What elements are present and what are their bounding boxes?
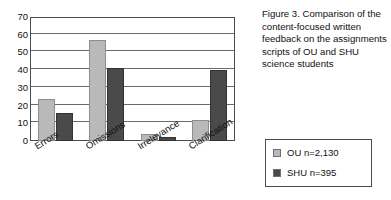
- bar-chart: 706050403020100 ErrorsOmissionsIrrelevan…: [0, 0, 255, 200]
- y-tick-label-0: 0: [2, 136, 28, 146]
- y-tick-label-30: 30: [2, 83, 28, 93]
- y-tick-label-70: 70: [2, 12, 28, 22]
- bar: [89, 40, 106, 141]
- legend-item-shu: SHU n=395: [273, 168, 336, 178]
- bars-layer: [30, 17, 235, 141]
- bar-group: [38, 17, 73, 141]
- y-tick-label-50: 50: [2, 47, 28, 57]
- y-tick-label-60: 60: [2, 30, 28, 40]
- legend-swatch-ou: [273, 149, 281, 157]
- y-tick-label-20: 20: [2, 101, 28, 111]
- y-axis-tick-labels: 706050403020100: [0, 0, 28, 200]
- legend-label-ou: OU n=2,130: [287, 148, 339, 158]
- legend-label-shu: SHU n=395: [287, 168, 336, 178]
- x-axis-category-labels: ErrorsOmissionsIrrelevanceClarification: [30, 143, 235, 200]
- legend-swatch-shu: [273, 169, 281, 177]
- figure-caption: Figure 3. Comparison of the content-focu…: [262, 8, 388, 71]
- y-tick-label-10: 10: [2, 118, 28, 128]
- y-tick-label-40: 40: [2, 65, 28, 75]
- chart-legend: OU n=2,130 SHU n=395: [265, 139, 372, 187]
- legend-item-ou: OU n=2,130: [273, 148, 339, 158]
